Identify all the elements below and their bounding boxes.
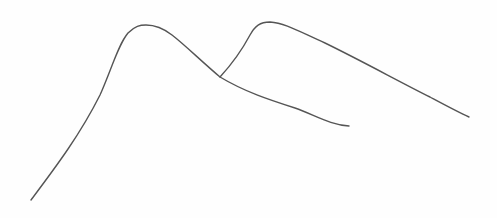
right-mountain-curve	[220, 22, 469, 117]
sketch-canvas	[0, 0, 497, 218]
sketch-drawing	[0, 0, 497, 218]
left-mountain-curve	[31, 25, 349, 200]
